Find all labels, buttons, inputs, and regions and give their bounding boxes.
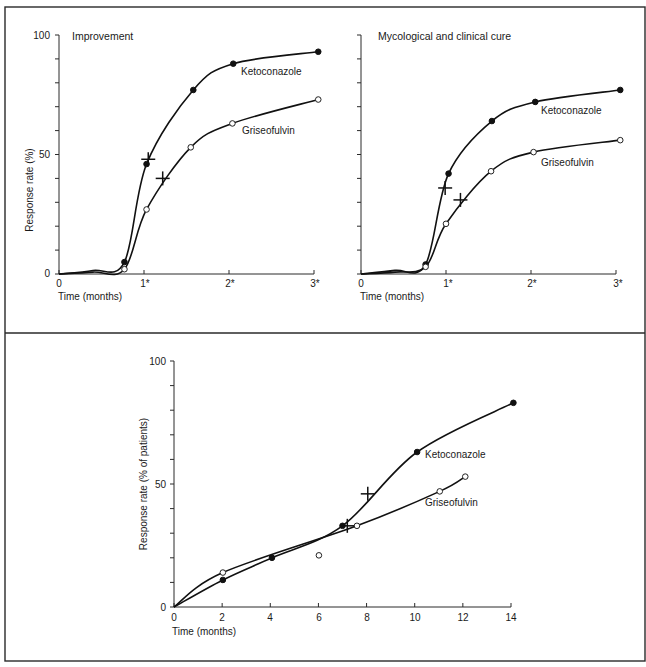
series-label-griseofulvin: Griseofulvin bbox=[242, 125, 295, 136]
plot-area bbox=[357, 35, 623, 274]
median-cross-marker bbox=[156, 171, 170, 185]
series-curve bbox=[361, 90, 620, 274]
data-point bbox=[488, 168, 494, 174]
x-tick-labels: 0 1* 2* 3* bbox=[358, 278, 623, 289]
series-label-ketoconazole: Ketoconazole bbox=[541, 105, 602, 116]
y-axis-label: Response rate (% of patients) bbox=[138, 418, 149, 550]
data-point bbox=[315, 49, 321, 55]
median-cross-marker bbox=[361, 487, 375, 501]
svg-text:0: 0 bbox=[44, 268, 50, 279]
data-point bbox=[531, 149, 537, 155]
panel-long-term: Response rate (% of patients) Time (mont… bbox=[138, 356, 517, 637]
series-curve bbox=[59, 52, 318, 274]
data-point bbox=[511, 400, 517, 406]
series-curve bbox=[174, 477, 465, 607]
median-cross-marker bbox=[438, 181, 452, 195]
data-point bbox=[354, 523, 360, 529]
svg-text:8: 8 bbox=[364, 612, 370, 623]
figure: Improvement Response rate (%) Time (mont… bbox=[0, 0, 646, 667]
data-point bbox=[462, 474, 468, 480]
svg-text:100: 100 bbox=[149, 356, 166, 367]
svg-text:1*: 1* bbox=[140, 278, 150, 289]
y-tick-labels: 0 50 100 bbox=[33, 30, 50, 279]
data-point bbox=[437, 489, 443, 495]
x-axis-label: Time (months) bbox=[172, 626, 236, 637]
data-point bbox=[220, 577, 226, 583]
x-tick-labels: 0 1* 2* 3* bbox=[56, 278, 320, 289]
svg-text:50: 50 bbox=[155, 479, 167, 490]
data-point bbox=[423, 264, 429, 270]
svg-text:3*: 3* bbox=[613, 278, 623, 289]
svg-text:50: 50 bbox=[39, 149, 51, 160]
data-point bbox=[220, 570, 226, 576]
axes bbox=[357, 35, 616, 274]
data-point bbox=[122, 259, 128, 265]
data-point bbox=[188, 145, 194, 151]
svg-text:6: 6 bbox=[316, 612, 322, 623]
svg-text:0: 0 bbox=[56, 278, 62, 289]
svg-text:1*: 1* bbox=[443, 278, 453, 289]
y-tick-labels: 0 50 100 bbox=[149, 356, 166, 613]
svg-text:0: 0 bbox=[171, 612, 177, 623]
series-label-ketoconazole: Ketoconazole bbox=[425, 449, 486, 460]
series-label-ketoconazole: Ketoconazole bbox=[241, 66, 302, 77]
series-griseofulvin bbox=[59, 97, 321, 275]
median-cross-marker bbox=[453, 193, 467, 207]
chart-canvas: Improvement Response rate (%) Time (mont… bbox=[0, 0, 646, 667]
data-point bbox=[191, 87, 197, 93]
svg-text:2*: 2* bbox=[527, 278, 537, 289]
x-axis-label: Time (months) bbox=[58, 291, 122, 302]
svg-text:2*: 2* bbox=[225, 278, 235, 289]
data-point bbox=[315, 97, 321, 103]
data-point bbox=[489, 118, 495, 124]
data-point bbox=[316, 553, 322, 559]
series-label-griseofulvin: Griseofulvin bbox=[425, 497, 478, 508]
svg-text:4: 4 bbox=[267, 612, 273, 623]
panel-title: Mycological and clinical cure bbox=[378, 30, 511, 42]
x-axis-label: Time (months) bbox=[360, 291, 424, 302]
plot-area bbox=[170, 361, 516, 607]
data-point bbox=[230, 121, 236, 127]
svg-text:14: 14 bbox=[505, 612, 517, 623]
data-point bbox=[230, 61, 236, 67]
svg-text:3*: 3* bbox=[310, 278, 320, 289]
svg-text:12: 12 bbox=[457, 612, 469, 623]
data-point bbox=[617, 87, 623, 93]
data-point bbox=[443, 221, 449, 227]
y-axis-label: Response rate (%) bbox=[24, 148, 35, 231]
svg-text:2: 2 bbox=[219, 612, 225, 623]
svg-text:0: 0 bbox=[160, 602, 166, 613]
data-point bbox=[446, 171, 452, 177]
series-label-griseofulvin: Griseofulvin bbox=[541, 157, 594, 168]
data-point bbox=[144, 207, 150, 213]
data-point bbox=[617, 137, 623, 143]
x-tick-labels: 0 2 4 6 8 10 12 14 bbox=[171, 612, 517, 623]
panel-improvement: Improvement Response rate (%) Time (mont… bbox=[24, 30, 321, 302]
data-point bbox=[414, 449, 420, 455]
svg-text:100: 100 bbox=[33, 30, 50, 41]
panel-mycological-cure: Mycological and clinical cure Time (mont… bbox=[357, 30, 623, 302]
data-point bbox=[532, 99, 538, 105]
svg-text:0: 0 bbox=[358, 278, 364, 289]
series-griseofulvin bbox=[174, 474, 468, 607]
panel-title: Improvement bbox=[72, 30, 133, 42]
svg-text:10: 10 bbox=[409, 612, 421, 623]
data-point bbox=[122, 266, 128, 272]
series-ketoconazole bbox=[59, 49, 321, 274]
